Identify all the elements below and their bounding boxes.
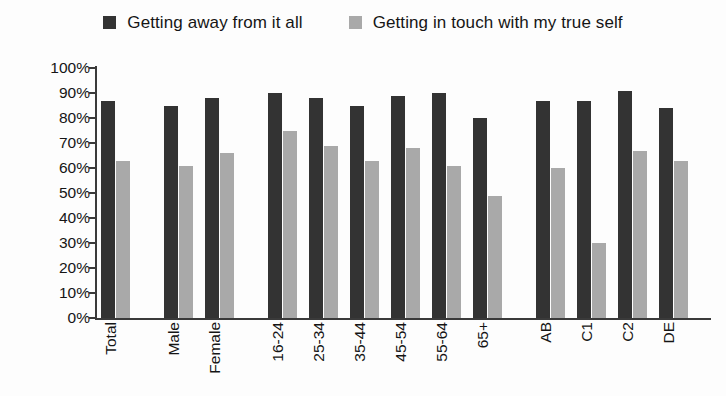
bar-female-series-1 [220,153,234,318]
y-axis-tick-mark [89,67,96,69]
y-axis-tick-label: 20% [59,260,90,276]
y-axis-tick-mark [89,267,96,269]
bar-male-series-1 [179,166,193,319]
bar-55-64-series-0 [432,93,446,318]
bar-chart: Getting away from it allGetting in touch… [0,0,726,396]
bar-45-54-series-1 [406,148,420,318]
bar-de-series-0 [659,108,673,318]
bar-16-24-series-0 [268,93,282,318]
bar-25-34-series-0 [309,98,323,318]
bar-65plus-series-0 [473,118,487,318]
bar-35-44-series-1 [365,161,379,319]
y-axis-tick-mark [89,167,96,169]
bar-group [268,68,309,318]
y-axis-tick-label: 90% [59,85,90,101]
y-axis-tick-label: 70% [59,135,90,151]
x-axis-tick-label: 16-24 [270,322,286,362]
y-axis-tick-label: 0% [68,310,90,326]
bar-group [659,68,700,318]
y-axis-tick-mark [89,217,96,219]
x-axis-tick-label: 55-64 [434,322,450,362]
x-axis-tick-label: C2 [620,322,636,342]
y-axis-tick-mark [89,292,96,294]
bar-c1-series-1 [592,243,606,318]
bar-group [432,68,473,318]
bar-group [391,68,432,318]
y-axis-tick-mark [89,142,96,144]
bar-c2-series-1 [633,151,647,319]
bar-ab-series-1 [551,168,565,318]
bar-group [101,68,142,318]
bar-male-series-0 [164,106,178,319]
x-axis-tick-label: 45-54 [393,322,409,362]
bar-group [309,68,350,318]
bar-45-54-series-0 [391,96,405,319]
y-axis-tick-label: 60% [59,160,90,176]
y-axis-tick-mark [89,92,96,94]
y-axis-tick-label: 100% [50,60,90,76]
bar-c1-series-0 [577,101,591,319]
bars-layer [97,68,711,318]
y-axis-tick-label: 50% [59,185,90,201]
bar-16-24-series-1 [283,131,297,319]
bar-ab-series-0 [536,101,550,319]
bar-group [473,68,514,318]
y-axis-tick-label: 80% [59,110,90,126]
y-axis-tick-mark [89,117,96,119]
x-axis-tick-label: DE [661,322,677,344]
y-axis-tick-labels: 100%90%80%70%60%50%40%30%20%10%0% [18,60,90,322]
y-axis-tick-label: 40% [59,210,90,226]
bar-65plus-series-1 [488,196,502,319]
bar-group [350,68,391,318]
x-axis-tick-label: Female [207,322,223,374]
bar-group [536,68,577,318]
x-axis-tick-label: C1 [579,322,595,342]
y-axis-tick-label: 30% [59,235,90,251]
bar-female-series-0 [205,98,219,318]
x-axis-tick-label: Total [103,322,119,355]
y-axis-tick-label: 10% [59,285,90,301]
x-axis-tick-label: AB [538,322,554,343]
y-axis-tick-mark [89,317,96,319]
bar-group [164,68,205,318]
bar-total-series-1 [116,161,130,319]
x-axis-tick-label: 65+ [475,322,491,348]
bar-group [618,68,659,318]
y-axis-tick-mark [89,192,96,194]
x-axis-tick-label: 35-44 [352,322,368,362]
y-axis-tick-mark [89,242,96,244]
bar-group [205,68,246,318]
bar-total-series-0 [101,101,115,319]
bar-55-64-series-1 [447,166,461,319]
x-axis-tick-label: Male [166,322,182,356]
bar-35-44-series-0 [350,106,364,319]
bar-de-series-1 [674,161,688,319]
x-axis-line [95,318,711,320]
bar-c2-series-0 [618,91,632,319]
bar-25-34-series-1 [324,146,338,319]
plot-area: 100%90%80%70%60%50%40%30%20%10%0% TotalM… [0,0,726,396]
bar-group [577,68,618,318]
x-axis-tick-label: 25-34 [311,322,327,362]
x-axis-tick-labels: TotalMaleFemale16-2425-3435-4445-5455-64… [97,322,711,396]
